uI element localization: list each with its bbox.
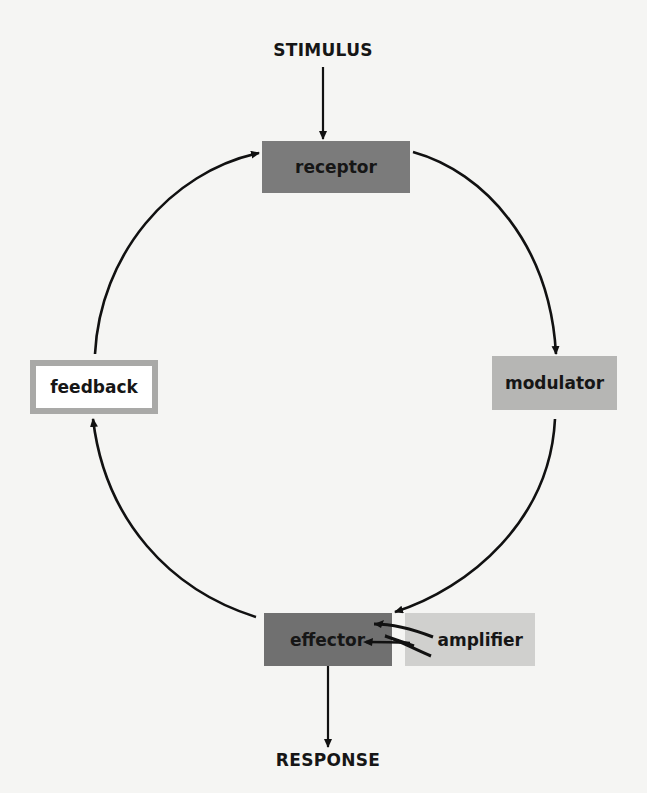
arrow-amplifier-to-effector-head <box>366 642 410 643</box>
arrow-amplifier-to-effector-lower <box>385 636 431 656</box>
amplifier-arrows <box>0 0 647 793</box>
arrow-amplifier-to-effector-upper <box>374 624 433 637</box>
response-label: RESPONSE <box>268 750 388 770</box>
